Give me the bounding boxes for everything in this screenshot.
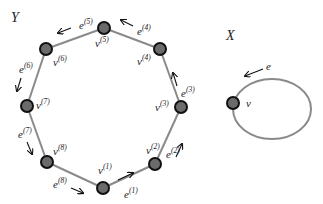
vertex-v6 — [40, 43, 52, 55]
graph-y-title: Y — [11, 10, 21, 25]
edge-label-e3: e(3) — [181, 85, 195, 99]
edge-label-e8: e(8) — [53, 176, 67, 190]
arrow-e4-icon — [121, 20, 133, 26]
vertex-label-v7: v(7) — [36, 97, 50, 111]
vertex-v1 — [97, 182, 109, 194]
vertex-label-v3: v(3) — [155, 99, 169, 113]
edge-label-e2: e(2) — [166, 146, 180, 160]
vertex-label-v1: v(1) — [98, 162, 112, 176]
vertex-label-v2: v(2) — [146, 142, 160, 156]
edge-label-e1: e(1) — [124, 186, 138, 200]
arrow-e6-icon — [17, 78, 21, 91]
edge-label-e5: e(5) — [79, 17, 93, 31]
edge-label-e4: e(4) — [137, 23, 151, 37]
arrow-e5-icon — [58, 28, 71, 33]
edge-e4 — [104, 28, 160, 49]
arrow-loop-e-icon — [245, 69, 263, 76]
arrow-e7-icon — [27, 142, 32, 154]
vertex-v — [227, 97, 239, 109]
vertex-v2 — [149, 158, 161, 170]
vertex-label-v5: v(5) — [95, 35, 109, 49]
arrow-e1-icon — [118, 173, 133, 180]
graph-x-title: X — [225, 28, 235, 43]
vertex-label-v4: v(4) — [137, 53, 151, 67]
vertex-v7 — [21, 100, 33, 112]
vertex-v5 — [98, 22, 110, 34]
vertex-v3 — [175, 101, 187, 113]
covering-graph-diagram: Y v(1) v(2) v(3) v(4) v — [0, 0, 323, 204]
loop-edge-label: e — [266, 60, 271, 72]
loop-edge-e — [233, 79, 311, 139]
vertex-label-v: v — [246, 97, 251, 109]
edge-label-e7: e(7) — [18, 126, 32, 140]
vertex-v8 — [41, 156, 53, 168]
vertex-v4 — [154, 43, 166, 55]
graph-y-vertex-labels: v(1) v(2) v(3) v(4) v(5) v(6) v(7) v(8) — [36, 35, 169, 176]
vertex-label-v6: v(6) — [53, 54, 67, 68]
edge-label-e6: e(6) — [19, 61, 33, 75]
vertex-label-v8: v(8) — [53, 143, 67, 157]
arrow-e8-icon — [71, 188, 83, 193]
